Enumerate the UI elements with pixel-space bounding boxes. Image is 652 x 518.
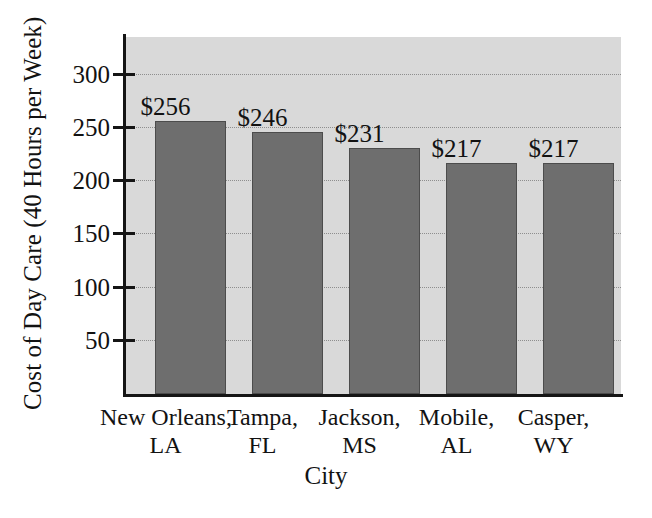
y-tick-label-250: 250	[50, 115, 110, 140]
bar-value-new-orleans: $256	[120, 94, 211, 119]
bar-value-mobile: $217	[411, 136, 502, 161]
bar-jackson	[349, 148, 420, 394]
bar-value-jackson: $231	[314, 121, 405, 146]
bar-chart-figure: Cost of Day Care (40 Hours per Week) 300…	[0, 0, 652, 518]
y-tick-mark-100	[113, 286, 135, 289]
gridline-300	[125, 74, 621, 75]
bar-tampa	[252, 132, 323, 394]
x-tick-label-line1: Mobile,	[419, 404, 494, 430]
bar-value-casper: $217	[508, 136, 599, 161]
x-tick-label-line2: WY	[498, 431, 609, 459]
y-tick-label-100: 100	[50, 275, 110, 300]
x-tick-label-line1: Casper,	[518, 404, 590, 430]
y-tick-label-50: 50	[50, 328, 110, 353]
plot-area	[125, 37, 621, 394]
x-axis-spine	[123, 394, 623, 397]
x-tick-label-line2: FL	[207, 431, 318, 459]
y-tick-mark-150	[113, 232, 135, 235]
x-tick-label-jackson: Jackson, MS	[304, 403, 415, 459]
x-axis-title: City	[0, 462, 652, 490]
y-tick-label-150: 150	[50, 221, 110, 246]
x-tick-label-tampa: Tampa, FL	[207, 403, 318, 459]
x-tick-label-mobile: Mobile, AL	[401, 403, 512, 459]
y-tick-label-300: 300	[50, 62, 110, 87]
y-tick-mark-200	[113, 179, 135, 182]
x-tick-label-line1: Jackson,	[319, 404, 401, 430]
x-tick-label-line1: Tampa,	[227, 404, 298, 430]
y-tick-mark-250	[113, 126, 135, 129]
x-tick-label-line2: AL	[401, 431, 512, 459]
bar-value-tampa: $246	[217, 105, 308, 130]
bar-casper	[543, 163, 614, 394]
bar-mobile	[446, 163, 517, 394]
bar-new-orleans	[155, 121, 226, 394]
y-tick-mark-300	[113, 73, 135, 76]
y-axis-spine	[123, 34, 126, 397]
x-tick-label-line2: MS	[304, 431, 415, 459]
x-tick-label-casper: Casper, WY	[498, 403, 609, 459]
y-tick-label-200: 200	[50, 168, 110, 193]
y-tick-mark-50	[113, 339, 135, 342]
